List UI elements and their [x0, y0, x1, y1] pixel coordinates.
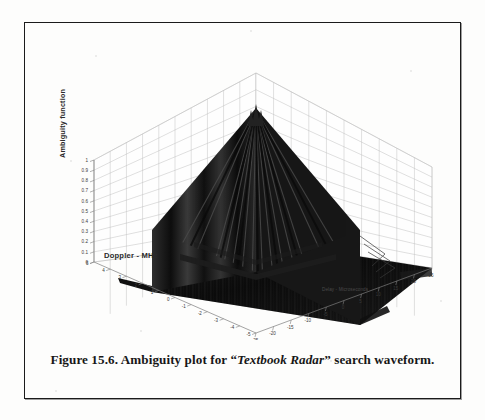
y-tick-label: 20 — [411, 279, 417, 284]
caption-suffix: search waveform. — [331, 352, 435, 367]
scan-speckle — [440, 300, 442, 302]
figure-caption: Figure 15.6. Ambiguity plot for “Textboo… — [24, 352, 461, 368]
z-tick-label: 0.7 — [82, 188, 89, 193]
y-tick-label: -20 — [269, 331, 276, 336]
y-tick-label: 15 — [393, 286, 399, 291]
z-tick-label: 0.6 — [82, 199, 89, 204]
x-tick-label: 4 — [102, 268, 105, 273]
y-tick-label: -10 — [305, 318, 312, 323]
x-tick — [106, 269, 110, 271]
scan-speckle — [55, 390, 57, 392]
x-tick-label: -4 — [230, 325, 234, 330]
x-tick — [90, 262, 94, 264]
caption-italic-title: Textbook Radar — [237, 352, 324, 367]
z-tick-label: 0.3 — [82, 229, 89, 234]
x-tick — [220, 319, 224, 321]
x-tick-label: -3 — [214, 318, 218, 323]
y-tick-label: -5 — [323, 312, 327, 317]
scan-speckle — [330, 360, 332, 362]
y-tick-label: 10 — [376, 292, 382, 297]
x-tick — [122, 276, 126, 278]
x-tick — [236, 326, 240, 328]
scan-speckle — [70, 160, 72, 162]
x-tick-label: -1 — [182, 304, 186, 309]
x-axis-label: Doppler - MHz — [104, 251, 158, 260]
scan-speckle — [95, 55, 97, 57]
z-tick-label: 0.5 — [82, 209, 89, 214]
caption-prefix: Figure 15.6. Ambiguity plot for — [51, 352, 231, 367]
scan-speckle — [410, 70, 412, 72]
x-tick — [171, 298, 175, 300]
z-axis-tick-labels: 10.90.80.70.60.50.40.30.20.10 — [82, 158, 89, 265]
y-tick-label: -15 — [287, 325, 294, 330]
x-tick-label: 0 — [167, 297, 170, 302]
z-tick-label: 0.2 — [82, 239, 89, 244]
scanned-page: 10.90.80.70.60.50.40.30.20.10 543210-1-2… — [0, 0, 485, 420]
z-tick-label: 0.8 — [82, 178, 89, 183]
z-tick-label: 1 — [85, 158, 88, 163]
z-tick-label: 0.1 — [82, 250, 89, 255]
plot-canvas: 10.90.80.70.60.50.40.30.20.10 543210-1-2… — [60, 40, 460, 340]
z-axis-label: Ambiguity function — [58, 89, 67, 158]
y-tick-label: -25 — [252, 338, 259, 341]
y-axis-label: Delay - Microseconds — [322, 287, 368, 292]
x-tick-label: 5 — [86, 261, 89, 266]
ambiguity-surface-plot: 10.90.80.70.60.50.40.30.20.10 543210-1-2… — [60, 40, 460, 340]
x-tick-label: -5 — [246, 332, 250, 337]
y-tick-label: 25 — [428, 273, 434, 278]
x-tick — [203, 312, 207, 314]
scan-speckle — [140, 330, 142, 332]
z-tick-label: 0.9 — [82, 168, 89, 173]
x-tick-label: -2 — [198, 311, 202, 316]
scan-speckle — [250, 30, 252, 32]
z-axis-ticks — [90, 160, 94, 264]
z-tick-label: 0.4 — [82, 219, 89, 224]
x-tick — [187, 305, 191, 307]
